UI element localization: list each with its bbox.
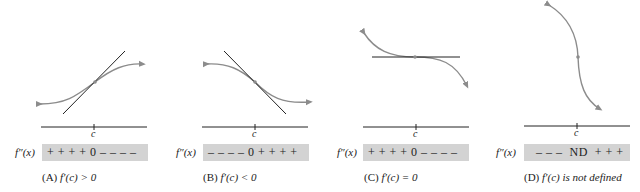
row-label-d: f″(x) xyxy=(496,146,516,158)
panel-a-graph xyxy=(40,51,147,130)
caption-c: (C) f′(c) = 0 xyxy=(364,171,418,183)
caption-b-expr: f′(c) < 0 xyxy=(220,171,256,183)
curve-c xyxy=(364,33,467,86)
sign-chart-a: + + + + 0 – – – – xyxy=(42,144,148,161)
curve-b xyxy=(207,64,310,102)
caption-b-prefix: (B) xyxy=(203,171,218,183)
row-label-c: f″(x) xyxy=(337,146,357,158)
c-label-b: c xyxy=(252,128,256,139)
inflection-point-d xyxy=(576,55,580,59)
sign-chart-b: – – – – 0 + + + + xyxy=(203,144,309,161)
caption-d: (D) f′(c) is not defined xyxy=(524,171,622,183)
sign-chart-d: – – – ND + + + xyxy=(524,144,630,161)
caption-a: (A) f′(c) > 0 xyxy=(42,171,96,183)
c-label-c: c xyxy=(413,128,417,139)
panel-b-graph xyxy=(202,51,310,130)
c-label-d: c xyxy=(574,127,578,138)
row-label-a: f″(x) xyxy=(15,146,35,158)
panel-d-graph xyxy=(524,5,630,129)
caption-a-prefix: (A) xyxy=(42,171,57,183)
caption-a-expr: f′(c) > 0 xyxy=(60,171,96,183)
row-label-b: f″(x) xyxy=(176,146,196,158)
c-label-a: c xyxy=(91,128,95,139)
curve-d xyxy=(549,5,600,109)
caption-c-prefix: (C) xyxy=(364,171,379,183)
panel-c-graph xyxy=(363,33,469,130)
caption-d-expr: f′(c) is not defined xyxy=(542,171,622,183)
inflection-diagrams xyxy=(0,0,640,192)
curve-a xyxy=(40,64,143,104)
inflection-point-c xyxy=(413,55,417,59)
caption-b: (B) f′(c) < 0 xyxy=(203,171,257,183)
caption-d-prefix: (D) xyxy=(524,171,539,183)
inflection-point-b xyxy=(253,80,257,84)
caption-c-expr: f′(c) = 0 xyxy=(381,171,417,183)
inflection-point-a xyxy=(93,80,97,84)
sign-chart-c: + + + + 0 – – – – xyxy=(363,144,469,161)
